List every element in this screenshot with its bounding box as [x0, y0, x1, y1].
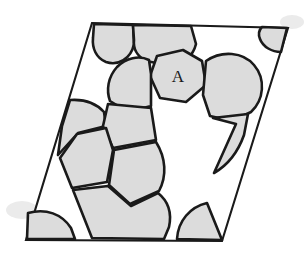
grain-a-label: A — [172, 67, 185, 86]
grain-top-left-lobe — [93, 24, 134, 63]
grain-structure-diagram: A — [0, 0, 306, 257]
figure-root: A — [0, 0, 306, 257]
grain-right-round — [203, 54, 262, 121]
